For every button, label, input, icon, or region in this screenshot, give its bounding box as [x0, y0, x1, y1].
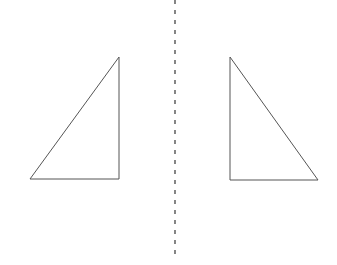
- reflection-diagram: [0, 0, 337, 265]
- right-triangle: [230, 57, 318, 180]
- left-triangle: [30, 57, 119, 179]
